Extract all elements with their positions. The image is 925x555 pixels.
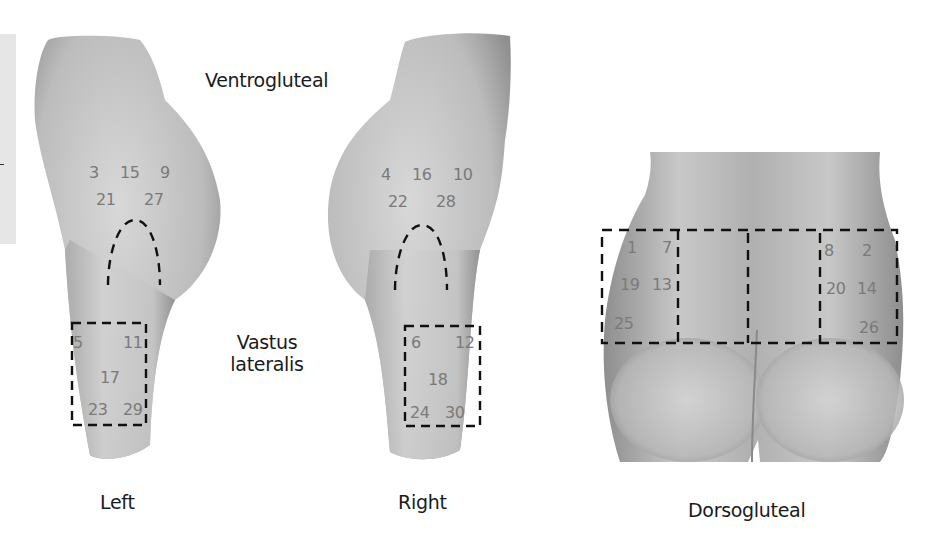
site-number: 13 [652,277,671,293]
site-number: 10 [453,167,472,183]
site-number: 30 [445,405,464,421]
site-number: 14 [857,281,876,297]
site-number: 28 [436,194,455,210]
site-number: 8 [824,243,834,259]
vastus-label-line1: Vastus [222,332,312,354]
dorsogluteal-label: Dorsogluteal [688,500,805,522]
site-number: 16 [412,167,431,183]
left-thigh-illustration [35,36,221,459]
site-number: 24 [410,405,429,421]
vastus-lateralis-label: Vastus lateralis [222,332,312,376]
dorsogluteal-illustration [602,152,904,462]
site-number: 25 [614,316,633,332]
site-number: 22 [388,194,407,210]
site-number: 5 [73,335,83,351]
site-number: 3 [89,165,99,181]
vastus-label-line2: lateralis [222,354,312,376]
site-number: 27 [144,192,163,208]
site-number: 18 [428,372,447,388]
site-number: 23 [88,402,107,418]
site-number: 12 [455,335,474,351]
site-number: 29 [123,402,142,418]
site-number: 15 [120,165,139,181]
site-number: 21 [96,192,115,208]
site-number: 11 [123,335,142,351]
site-number: 20 [826,281,845,297]
left-label: Left [100,492,135,514]
site-number: 7 [662,240,672,256]
right-thigh-illustration [328,33,511,459]
site-number: 1 [627,240,637,256]
site-number: 26 [859,320,878,336]
site-number: 9 [160,165,170,181]
site-number: 19 [620,277,639,293]
ventrogluteal-label: Ventrogluteal [205,70,328,92]
right-label: Right [398,492,447,514]
site-number: 2 [862,243,872,259]
site-number: 17 [100,370,119,386]
site-number: 6 [411,335,421,351]
injection-sites-figure [0,0,925,555]
site-number: 4 [381,167,391,183]
